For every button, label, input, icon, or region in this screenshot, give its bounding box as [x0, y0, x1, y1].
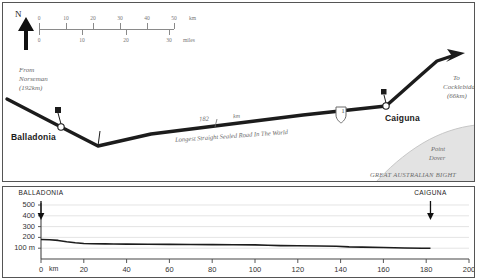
y-axis-tick-label: 200 — [3, 232, 35, 241]
y-axis-tick-label: 500 — [3, 200, 35, 209]
highway-shield-number: 1 — [338, 108, 348, 116]
x-axis-tick-label: 0 — [39, 265, 43, 274]
point-dover-label-line-2: Dover — [429, 154, 445, 161]
balladonia-marker-stem — [58, 113, 61, 124]
scale-miles-unit: miles — [183, 37, 195, 43]
x-axis-unit-label: km — [49, 265, 58, 272]
scale-mi-tick-10: 10 — [79, 37, 85, 43]
scale-km-tick-50: 50 — [171, 15, 177, 21]
y-axis-tick-label: 100 m — [3, 243, 35, 252]
scale-km-unit: km — [189, 15, 196, 21]
scale-mi-tick-30: 30 — [166, 37, 172, 43]
town-label-balladonia: Balladonia — [11, 133, 56, 142]
x-axis-tick-label: 100 — [249, 265, 262, 274]
x-axis-tick-label: 80 — [208, 265, 216, 274]
scale-mi-tick-20: 20 — [123, 37, 129, 43]
map-panel: 1 N 0 10 20 30 40 50 km — [2, 2, 475, 182]
x-axis-tick-label: 40 — [122, 265, 130, 274]
origin-note-line-2: Norseman — [19, 76, 48, 84]
x-axis-tick-label: 20 — [80, 265, 88, 274]
x-axis-tick-label: 160 — [377, 265, 390, 274]
elevation-profile-panel: km 100 m20030040050002040608010012014016… — [2, 186, 475, 278]
scale-axis-line — [39, 29, 174, 30]
balladonia-town-marker — [58, 124, 64, 130]
down-arrow-icon — [427, 213, 434, 220]
scale-km-tick-10: 10 — [63, 15, 69, 21]
scale-km-tick-40: 40 — [144, 15, 150, 21]
caiguna-town-marker — [383, 103, 389, 109]
scale-km-tick-20: 20 — [90, 15, 96, 21]
side-track-west — [98, 131, 100, 146]
scale-km-tick-0: 0 — [38, 15, 41, 21]
x-axis-tick-label: 60 — [165, 265, 173, 274]
scale-mi-tick-0: 0 — [38, 37, 41, 43]
scale-km-tick-30: 30 — [117, 15, 123, 21]
town-label-caiguna: Caiguna — [385, 114, 420, 123]
destination-note-line-1: To — [453, 75, 460, 83]
profile-town-label: CAIGUNA — [414, 189, 446, 196]
great-australian-bight-label: GREAT AUSTRALIAN BIGHT — [370, 171, 456, 178]
destination-note-line-3: (66km) — [447, 93, 467, 101]
balladonia-roadhouse-icon — [55, 107, 61, 113]
x-axis-tick-label: 140 — [334, 265, 347, 274]
x-axis-tick-label: 120 — [292, 265, 305, 274]
destination-note-line-2: Cocklebiddy — [443, 84, 475, 92]
road-distance-value: 182 — [199, 115, 209, 123]
road-to-cocklebiddy — [386, 55, 455, 106]
origin-note-line-3: (192km) — [19, 85, 42, 93]
x-axis-tick-label: 180 — [420, 265, 433, 274]
profile-town-label: BALLADONIA — [19, 189, 64, 196]
road-distance-unit: km — [233, 113, 240, 120]
north-arrow-icon — [15, 15, 37, 51]
eyre-highway-map-figure: 1 N 0 10 20 30 40 50 km — [0, 0, 477, 280]
elevation-profile-line — [41, 240, 430, 249]
origin-note-line-1: From — [19, 67, 34, 75]
caiguna-marker-stem — [384, 95, 386, 103]
point-dover-label-line-1: Point — [431, 145, 445, 152]
y-axis-tick-label: 300 — [3, 222, 35, 231]
y-axis-tick-label: 400 — [3, 211, 35, 220]
caiguna-roadhouse-icon — [381, 89, 387, 95]
x-axis-tick-label: 200 — [463, 265, 475, 274]
down-arrow-icon — [38, 213, 45, 220]
elevation-profile-chart — [3, 187, 475, 278]
scale-bar: 0 10 20 30 40 50 km 0 10 20 30 miles — [39, 15, 189, 47]
